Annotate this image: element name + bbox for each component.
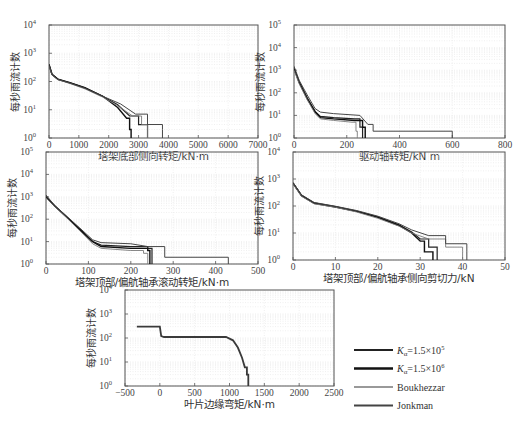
x-tick-label: 7000 <box>249 140 268 150</box>
subplot-1: 0100020003000400050006000700010010110210… <box>9 18 268 162</box>
x-tick-label: 100 <box>81 266 96 276</box>
legend-label: Jonkman <box>397 400 433 411</box>
x-tick-label: 400 <box>208 266 223 276</box>
x-tick-label: 2500 <box>325 388 344 398</box>
y-axis-label: 每秒雨流计数 <box>253 176 265 236</box>
legend-label: Boukhezzar <box>397 382 445 393</box>
y-tick-label: 100 <box>23 131 36 143</box>
y-tick-label: 102 <box>99 331 112 343</box>
series-line <box>294 68 365 138</box>
y-axis-label: 每秒雨流计数 <box>6 178 18 238</box>
legend: Kα=1.5×105Kα=1.5×106BoukhezzarJonkman <box>354 344 445 412</box>
series-line <box>46 197 152 264</box>
series-line <box>293 182 467 260</box>
series-line <box>49 65 162 138</box>
rainflow-figure: 0100020003000400050006000700010010110210… <box>0 0 532 431</box>
y-tick-label: 105 <box>268 18 281 30</box>
x-tick-label: 0 <box>292 140 297 150</box>
y-tick-label: 103 <box>267 172 280 184</box>
series-line <box>49 66 148 138</box>
series-line <box>49 64 131 138</box>
x-tick-label: 1500 <box>255 388 274 398</box>
x-tick-label: 40 <box>458 262 468 272</box>
y-tick-label: 103 <box>99 307 112 319</box>
y-tick-label: 104 <box>99 283 113 295</box>
legend-label: Kα=1.5×106 <box>396 362 445 376</box>
x-axis-label: 塔架顶部/偏航轴承侧向剪切力/kN <box>323 272 474 284</box>
x-tick-label: 500 <box>188 388 203 398</box>
y-tick-label: 102 <box>268 86 281 98</box>
x-tick-label: 200 <box>124 266 139 276</box>
subplot-5: −50005001000150020002500100101102103104叶… <box>85 283 344 410</box>
series-line <box>293 183 437 260</box>
x-tick-label: 20 <box>373 262 383 272</box>
series-line <box>294 70 357 138</box>
y-tick-label: 100 <box>268 131 281 143</box>
x-tick-label: 50 <box>500 262 510 272</box>
x-tick-label: 0 <box>291 262 296 272</box>
x-tick-label: 0 <box>157 388 162 398</box>
axes-frame <box>294 25 505 138</box>
x-tick-label: 0 <box>44 266 49 276</box>
y-tick-label: 101 <box>99 355 112 367</box>
series-line <box>137 327 248 386</box>
y-tick-label: 100 <box>20 257 33 269</box>
y-tick-label: 104 <box>20 167 34 179</box>
y-tick-label: 101 <box>20 235 33 247</box>
subplot-4: 01020304050100101102103104塔架顶部/偏航轴承侧向剪切力… <box>253 145 510 284</box>
y-tick-label: 102 <box>20 212 33 224</box>
subplot-2: 0200400600800100101102103104105驱动轴转矩/kN … <box>254 18 512 162</box>
x-tick-label: 600 <box>445 140 460 150</box>
y-tick-label: 104 <box>268 41 282 53</box>
x-tick-label: 1000 <box>220 388 239 398</box>
x-tick-label: 30 <box>415 262 425 272</box>
x-tick-label: 0 <box>47 140 52 150</box>
y-tick-label: 104 <box>267 145 281 157</box>
x-tick-label: 500 <box>251 266 266 276</box>
series-line <box>294 66 452 138</box>
axes-frame <box>46 152 258 264</box>
y-tick-label: 102 <box>267 199 280 211</box>
y-axis-label: 每秒雨流计数 <box>254 52 266 112</box>
x-axis-label: 叶片边缘弯矩/kN·m <box>184 398 275 410</box>
x-tick-label: −500 <box>115 388 135 398</box>
y-tick-label: 103 <box>23 46 36 58</box>
series-line <box>46 195 228 264</box>
series-line <box>294 68 363 138</box>
y-tick-label: 105 <box>20 145 33 157</box>
x-tick-label: 400 <box>392 140 407 150</box>
x-tick-label: 200 <box>340 140 355 150</box>
y-tick-label: 104 <box>23 18 37 30</box>
x-tick-label: 6000 <box>219 140 238 150</box>
x-tick-label: 2000 <box>99 140 118 150</box>
x-tick-label: 4000 <box>159 140 178 150</box>
x-tick-label: 300 <box>166 266 181 276</box>
x-tick-label: 5000 <box>189 140 208 150</box>
series-line <box>49 64 148 138</box>
y-tick-label: 103 <box>268 63 281 75</box>
series-line <box>293 183 433 260</box>
y-axis-label: 每秒雨流计数 <box>85 308 97 368</box>
y-tick-label: 101 <box>268 108 281 120</box>
y-tick-label: 101 <box>267 226 280 238</box>
y-tick-label: 100 <box>99 379 112 391</box>
legend-label: Kα=1.5×105 <box>396 344 444 358</box>
subplot-3: 0100200300400500100101102103104105塔架顶部/偏… <box>6 145 265 288</box>
y-tick-label: 102 <box>23 75 36 87</box>
x-tick-label: 2000 <box>290 388 309 398</box>
x-tick-label: 3000 <box>129 140 148 150</box>
y-tick-label: 100 <box>267 253 280 265</box>
x-axis-label: 塔架顶部/偏航轴承滚动转矩/kN·m <box>75 276 230 288</box>
x-tick-label: 10 <box>331 262 341 272</box>
y-tick-label: 101 <box>23 103 36 115</box>
y-axis-label: 每秒雨流计数 <box>9 52 21 112</box>
y-tick-label: 103 <box>20 190 33 202</box>
x-tick-label: 800 <box>498 140 513 150</box>
x-tick-label: 1000 <box>69 140 88 150</box>
series-line <box>46 197 150 264</box>
